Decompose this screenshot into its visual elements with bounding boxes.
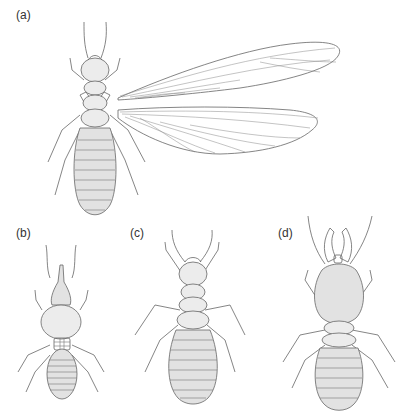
- worker-termite-illustration: [135, 230, 245, 404]
- mandibulate-soldier-illustration: [283, 216, 395, 410]
- forewing: [118, 42, 340, 100]
- alate-termite-illustration: [48, 22, 340, 215]
- hindwing: [118, 107, 318, 154]
- termite-illustrations: [0, 0, 413, 420]
- antenna-left-icon: [84, 22, 88, 58]
- antenna-right-icon: [101, 22, 106, 58]
- nasute-soldier-illustration: [18, 245, 104, 399]
